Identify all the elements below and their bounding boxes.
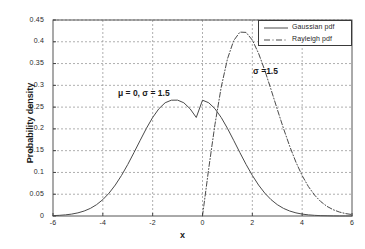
x-tick-label: 6 (337, 219, 365, 226)
x-tick-label: -2 (138, 219, 168, 226)
x-axis-label: x (0, 230, 365, 240)
y-tick-label: 0.15 (0, 146, 44, 153)
legend-line-dashdot-icon (263, 34, 289, 46)
y-tick-label: 0.2 (0, 124, 44, 131)
y-tick-label: 0.3 (0, 81, 44, 88)
legend-label-rayleigh: Rayleigh pdf (292, 35, 332, 42)
x-tick-label: 0 (188, 219, 218, 226)
y-tick-label: 0.25 (0, 103, 44, 110)
legend-line-solid-icon (263, 22, 289, 34)
legend-item-gaussian[interactable]: Gaussian pdf (259, 22, 353, 34)
y-tick-label: 0.1 (0, 168, 44, 175)
x-tick-label: 2 (237, 219, 267, 226)
x-tick-label: 4 (287, 219, 317, 226)
y-tick-label: 0.35 (0, 59, 44, 66)
y-tick-label: 0.4 (0, 37, 44, 44)
annotation-rayleigh-params: σ =1.5 (253, 66, 278, 76)
annotation-gaussian-params: μ = 0, σ = 1.5 (118, 88, 170, 98)
y-tick-label: 0.05 (0, 190, 44, 197)
legend[interactable]: Gaussian pdf Rayleigh pdf (258, 20, 352, 46)
y-axis-label: Probability density (25, 43, 35, 203)
y-tick-label: 0 (0, 212, 44, 219)
legend-item-rayleigh[interactable]: Rayleigh pdf (259, 34, 353, 46)
figure-canvas: 00.050.10.150.20.250.30.350.40.45 -6-4-2… (0, 0, 365, 249)
x-tick-label: -4 (88, 219, 118, 226)
x-tick-label: -6 (38, 219, 68, 226)
y-tick-label: 0.45 (0, 16, 44, 23)
legend-label-gaussian: Gaussian pdf (292, 23, 334, 30)
